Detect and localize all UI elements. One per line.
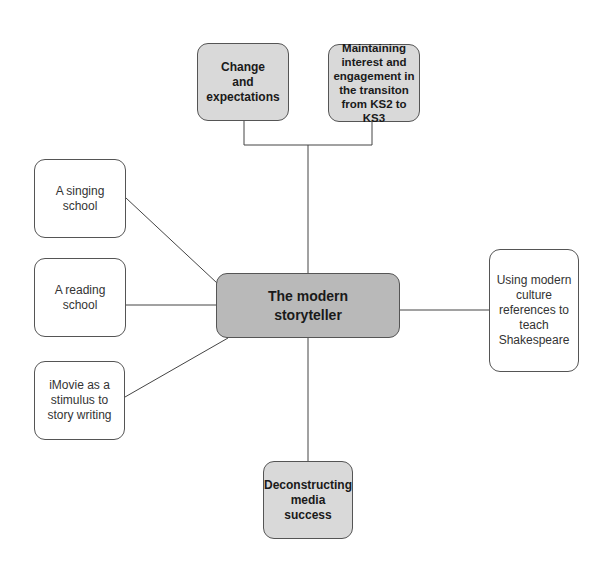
node-change-and-expectations: Change and expectations [197,43,289,121]
node-shakespeare: Using modern culture references to teach… [489,249,579,372]
node-label: Maintaining interest and engagement in t… [331,41,417,125]
node-imovie-stimulus: iMovie as a stimulus to story writing [34,361,125,440]
node-label: The modern storyteller [268,287,348,325]
node-label: iMovie as a stimulus to story writing [47,378,111,423]
node-deconstructing-media: Deconstructing media success [263,461,353,539]
node-label: A reading school [55,283,106,313]
connector-singing [126,198,217,283]
node-label: Deconstructing media success [264,478,352,523]
node-label: Change and expectations [206,60,279,105]
connector-imovie [125,338,228,397]
node-reading-school: A reading school [34,258,126,337]
node-label: Using modern culture references to teach… [497,273,572,348]
node-label: A singing school [56,184,105,214]
node-maintaining-interest: Maintaining interest and engagement in t… [328,44,420,122]
node-modern-storyteller: The modern storyteller [216,273,400,338]
node-singing-school: A singing school [34,159,126,238]
